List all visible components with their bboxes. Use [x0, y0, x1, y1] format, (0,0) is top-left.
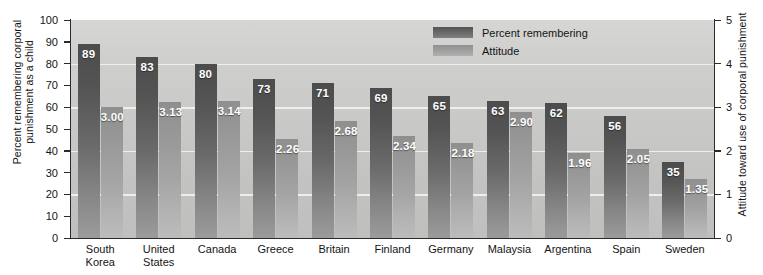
y-tick-left	[64, 238, 71, 239]
legend-swatch-icon	[433, 27, 473, 38]
bar-value-label: 2.26	[276, 143, 298, 155]
y-tick-left	[64, 216, 71, 217]
y-tick-left	[64, 85, 71, 86]
bar-percent-remembering: 56	[604, 116, 626, 238]
legend-item: Percent remembering	[433, 25, 638, 40]
bar-value-label: 71	[312, 87, 334, 99]
bar-value-label: 3.14	[218, 105, 240, 117]
bar-percent-remembering: 83	[136, 57, 158, 238]
bar-attitude: 2.68	[335, 121, 357, 238]
bar-percent-remembering: 80	[195, 64, 217, 238]
bar-attitude: 2.18	[451, 143, 473, 238]
y-tick-left	[64, 41, 71, 42]
bar-group: 712.68	[312, 20, 357, 238]
x-axis-label: Sweden	[648, 243, 722, 256]
bar-value-label: 35	[662, 166, 684, 178]
bar-group: 893.00	[78, 20, 123, 238]
y-tick-label-left: 90	[24, 36, 58, 48]
bar-attitude: 3.14	[218, 101, 240, 238]
bar-percent-remembering: 62	[545, 103, 567, 238]
bar-value-label: 2.05	[627, 153, 649, 165]
bar-value-label: 1.35	[685, 183, 707, 195]
y-tick-right	[714, 238, 721, 239]
bar-group: 732.26	[253, 20, 298, 238]
bar-chart: Percent remembering corporal punishment …	[0, 0, 763, 275]
y-tick-left	[64, 107, 71, 108]
bar-value-label: 83	[136, 61, 158, 73]
y-axis-right-line	[714, 19, 715, 239]
y-tick-label-left: 30	[24, 167, 58, 179]
bar-attitude: 2.05	[627, 149, 649, 238]
bar-percent-remembering: 69	[370, 88, 392, 238]
y-tick-left	[64, 129, 71, 130]
y-tick-label-left: 0	[24, 232, 58, 244]
bar-percent-remembering: 89	[78, 44, 100, 238]
x-axis-label-line: Sweden	[648, 243, 722, 256]
bar-value-label: 69	[370, 92, 392, 104]
x-axis-label-line: States	[121, 256, 195, 269]
bar-percent-remembering: 65	[428, 96, 450, 238]
y-tick-label-right: 3	[726, 101, 742, 113]
bar-value-label: 2.90	[510, 116, 532, 128]
y-tick-left	[64, 172, 71, 173]
bar-attitude: 2.34	[393, 136, 415, 238]
y-tick-right	[714, 63, 721, 64]
y-tick-right	[714, 20, 721, 21]
bar-value-label: 73	[253, 83, 275, 95]
y-tick-left	[64, 194, 71, 195]
bar-percent-remembering: 71	[312, 83, 334, 238]
bar-percent-remembering: 73	[253, 79, 275, 238]
bar-value-label: 80	[195, 68, 217, 80]
y-tick-label-left: 60	[24, 101, 58, 113]
bar-value-label: 62	[545, 107, 567, 119]
y-tick-left	[64, 150, 71, 151]
y-tick-label-right: 5	[726, 14, 742, 26]
bar-value-label: 3.00	[101, 111, 123, 123]
bar-value-label: 3.13	[159, 106, 181, 118]
bar-value-label: 2.34	[393, 140, 415, 152]
legend: Percent rememberingAttitude	[433, 25, 638, 61]
bar-value-label: 56	[604, 120, 626, 132]
legend-label: Attitude	[482, 45, 519, 57]
bar-value-label: 89	[78, 48, 100, 60]
y-tick-left	[64, 63, 71, 64]
y-tick-label-right: 4	[726, 58, 742, 70]
bar-attitude: 2.90	[510, 112, 532, 238]
y-tick-right	[714, 194, 721, 195]
bar-group: 692.34	[370, 20, 415, 238]
bar-group: 833.13	[136, 20, 181, 238]
y-tick-label-right: 0	[726, 232, 742, 244]
bar-value-label: 1.96	[568, 157, 590, 169]
bar-attitude: 1.35	[685, 179, 707, 238]
bar-percent-remembering: 35	[662, 162, 684, 238]
bar-attitude: 2.26	[276, 139, 298, 238]
y-tick-label-right: 2	[726, 145, 742, 157]
y-tick-label-left: 20	[24, 188, 58, 200]
y-tick-left	[64, 20, 71, 21]
bar-group: 351.35	[662, 20, 707, 238]
bar-attitude: 3.13	[159, 102, 181, 238]
bar-attitude: 3.00	[101, 107, 123, 238]
legend-item: Attitude	[433, 43, 638, 58]
y-tick-label-left: 10	[24, 210, 58, 222]
y-tick-right	[714, 150, 721, 151]
y-tick-label-right: 1	[726, 188, 742, 200]
bar-value-label: 65	[428, 100, 450, 112]
x-axis-line	[70, 238, 716, 239]
bar-attitude: 1.96	[568, 153, 590, 238]
bar-percent-remembering: 63	[487, 101, 509, 238]
y-tick-label-left: 70	[24, 79, 58, 91]
y-tick-label-left: 100	[24, 14, 58, 26]
legend-label: Percent remembering	[482, 27, 588, 39]
bar-value-label: 2.18	[451, 147, 473, 159]
bar-group: 803.14	[195, 20, 240, 238]
bar-value-label: 2.68	[335, 125, 357, 137]
y-tick-right	[714, 107, 721, 108]
y-tick-label-left: 80	[24, 58, 58, 70]
bar-value-label: 63	[487, 105, 509, 117]
legend-swatch-icon	[433, 45, 473, 56]
y-tick-label-left: 50	[24, 123, 58, 135]
y-tick-label-left: 40	[24, 145, 58, 157]
